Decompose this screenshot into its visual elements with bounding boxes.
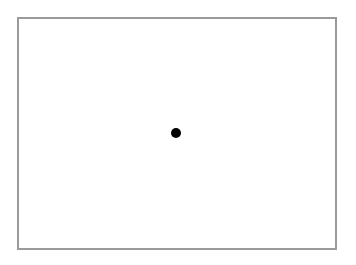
canvas <box>0 0 356 265</box>
center-dot[interactable] <box>171 128 181 138</box>
